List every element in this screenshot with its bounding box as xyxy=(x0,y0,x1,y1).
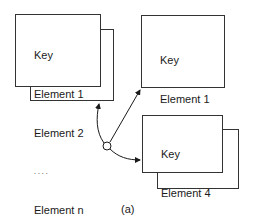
arrow-to-top-right-node xyxy=(110,90,140,142)
arrow-to-bottom-right-node xyxy=(110,149,140,160)
arrow-to-left-node xyxy=(97,104,104,143)
figure-caption: (a) xyxy=(121,203,134,215)
branch-node-circle xyxy=(103,142,111,150)
connector-arrows xyxy=(0,0,258,218)
